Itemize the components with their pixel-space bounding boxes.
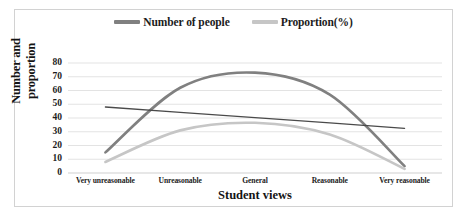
y-tick-70: 70 [36,71,62,81]
y-tick-80: 80 [36,57,62,67]
y-tick-60: 60 [36,85,62,95]
y-tick-50: 50 [36,98,62,108]
x-tick-very-reasonable: Very reasonable [367,176,442,185]
line-segment-icon [114,20,140,24]
y-tick-40: 40 [36,112,62,122]
x-axis-ticks: Very unreasonable Unreasonable General R… [68,176,442,185]
x-tick-very-unreasonable: Very unreasonable [68,176,143,185]
x-tick-general: General [218,176,293,185]
line-segment-icon [252,20,278,24]
chart-figure: Number of people Proportion(%) Number an… [0,0,467,216]
x-axis-label: Student views [68,188,442,203]
y-tick-0: 0 [36,167,62,177]
x-tick-unreasonable: Unreasonable [143,176,218,185]
legend-entry-number-of-people[interactable]: Number of people [114,16,229,28]
x-tick-reasonable: Reasonable [292,176,367,185]
y-tick-30: 30 [36,126,62,136]
y-axis-label: Number and proportion [9,11,39,131]
y-tick-10: 10 [36,153,62,163]
chart-legend: Number of people Proportion(%) [0,16,467,28]
y-tick-20: 20 [36,140,62,150]
legend-label-proportion: Proportion(%) [281,16,353,28]
legend-label-number-of-people: Number of people [143,16,229,28]
legend-entry-proportion[interactable]: Proportion(%) [252,16,353,28]
